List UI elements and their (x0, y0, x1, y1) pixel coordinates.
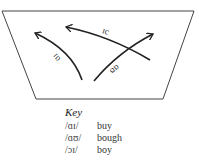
vowel-chart: ɑɪ ɑʊ ɔɪ (0, 0, 199, 100)
key-word: boy (97, 144, 112, 156)
key-row: /ɑʊ/ bough (65, 132, 122, 144)
key-symbol: /ɑɪ/ (65, 120, 97, 132)
key-legend: Key /ɑɪ/ buy /ɑʊ/ bough /ɔɪ/ boy (65, 106, 122, 156)
key-word: bough (97, 132, 122, 144)
key-row: /ɑɪ/ buy (65, 120, 122, 132)
label-oi: ɔɪ (100, 27, 110, 39)
key-row: /ɔɪ/ boy (65, 144, 122, 156)
key-title: Key (65, 106, 122, 118)
key-word: buy (97, 120, 112, 132)
vowel-trapezoid (2, 11, 194, 99)
key-symbol: /ɑʊ/ (65, 132, 97, 144)
label-ai: ɑɪ (50, 51, 63, 63)
key-symbol: /ɔɪ/ (65, 144, 97, 156)
